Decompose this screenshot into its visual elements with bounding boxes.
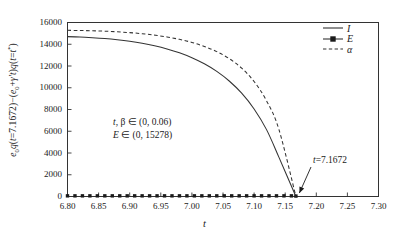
annotation-line-1-rest: , β ∈ (0, 0.06) [116, 117, 172, 127]
data-series [66, 30, 298, 197]
data-marker-E [185, 194, 188, 197]
y-tick-label: 6000 [22, 126, 62, 136]
annotation-leader [299, 167, 311, 193]
data-marker-E [260, 194, 263, 197]
y-tick-label: 8000 [22, 104, 62, 114]
data-marker-E [133, 194, 136, 197]
data-marker-E [170, 194, 173, 197]
legend-label-E: E [347, 33, 353, 44]
annotation-line-2: E ∈ (0, 15278) [113, 129, 172, 142]
chart-figure: e0q(t=7.1672)−(e0+γ't)q(t=t*) 0200040006… [0, 0, 409, 242]
data-marker-E [111, 194, 114, 197]
annotation-convergence-value: =7.1672 [316, 155, 347, 165]
data-marker-E [178, 194, 181, 197]
data-marker-E [96, 194, 99, 197]
data-marker-E [193, 194, 196, 197]
data-marker-E [118, 194, 121, 197]
data-marker-E [200, 194, 203, 197]
data-marker-E [126, 194, 129, 197]
data-marker-E [208, 194, 211, 197]
legend-sample-dashed-line-icon [322, 44, 344, 54]
data-marker-E [163, 194, 166, 197]
data-marker-E [81, 194, 84, 197]
data-marker-E [215, 194, 218, 197]
y-tick-label: 0 [22, 191, 62, 201]
y-tick-label: 12000 [22, 61, 62, 71]
legend-item-E[interactable]: E [322, 34, 378, 45]
legend-label-I: I [347, 23, 350, 34]
annotation-line-2-rest: ∈ (0, 15278) [119, 130, 172, 140]
y-tick-label: 2000 [22, 169, 62, 179]
data-marker-E [267, 194, 270, 197]
data-line-I [68, 37, 296, 197]
data-marker-E [148, 194, 151, 197]
annotation-parameter-ranges: t, β ∈ (0, 0.06) E ∈ (0, 15278) [113, 116, 172, 142]
data-marker-E [223, 194, 226, 197]
y-tick-label: 14000 [22, 39, 62, 49]
data-line-α [68, 30, 296, 196]
data-marker-E [103, 194, 106, 197]
data-marker-E [230, 194, 233, 197]
annotation-convergence-label: t=7.1672 [313, 154, 347, 167]
x-axis-label: t [0, 218, 409, 229]
y-tick-label: 10000 [22, 82, 62, 92]
data-marker-E [73, 194, 76, 197]
data-marker-E [66, 194, 69, 197]
legend-sample-square-marker-icon [322, 34, 344, 44]
data-marker-E [275, 194, 278, 197]
y-tick-label: 16000 [22, 17, 62, 27]
legend-item-I[interactable]: I [322, 23, 378, 34]
data-marker-E [252, 194, 255, 197]
y-tick-label: 4000 [22, 148, 62, 158]
legend-sample-solid-line-icon [322, 23, 344, 33]
legend-item-alpha[interactable]: α [322, 44, 378, 55]
legend-label-alpha: α [347, 44, 352, 55]
data-marker-E [245, 194, 248, 197]
data-marker-E [282, 194, 285, 197]
annotation-line-1: t, β ∈ (0, 0.06) [113, 116, 172, 129]
data-marker-E [155, 194, 158, 197]
legend: I E α [322, 23, 378, 55]
data-marker-E [88, 194, 91, 197]
data-marker-E [290, 194, 293, 197]
data-marker-E [237, 194, 240, 197]
x-tick-label: 7.30 [359, 201, 399, 211]
data-marker-E [140, 194, 143, 197]
